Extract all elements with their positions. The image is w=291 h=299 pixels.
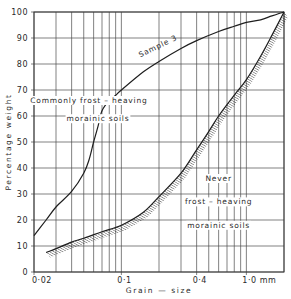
y-tick-label: 30 xyxy=(17,190,28,199)
y-tick-label: 0 xyxy=(22,268,28,277)
y-tick-label: 20 xyxy=(17,216,28,225)
y-tick-labels: 0102030405060708090100 xyxy=(11,8,28,277)
x-tick-label: 0·4 xyxy=(193,276,207,285)
annotation-label: morainic soils xyxy=(67,114,130,123)
y-tick-label: 100 xyxy=(11,8,28,17)
y-tick-label: 60 xyxy=(17,112,28,121)
y-axis-label: Percentage weight xyxy=(4,93,13,190)
x-axis-label: Grain — size xyxy=(126,286,192,295)
hatched-band xyxy=(46,12,288,258)
x-tick-label: 1·0 mm xyxy=(242,276,276,285)
annotation-label: frost – heaving xyxy=(185,197,253,206)
y-tick-label: 70 xyxy=(17,86,28,95)
y-tick-label: 90 xyxy=(17,34,28,43)
boundary-curve xyxy=(46,12,284,253)
y-tick-label: 50 xyxy=(17,138,28,147)
y-tick-label: 80 xyxy=(17,60,28,69)
grain-size-chart: 0102030405060708090100 0·020·10·41·0 mm … xyxy=(0,0,291,299)
annotation-label: morainic soils xyxy=(187,221,250,230)
y-tick-label: 10 xyxy=(17,242,28,251)
y-tick-label: 40 xyxy=(17,164,28,173)
x-gridlines xyxy=(34,12,284,275)
x-tick-label: 0·1 xyxy=(117,276,131,285)
annotation-label: Never xyxy=(205,174,231,183)
annotation-label: Commonly frost – heaving xyxy=(30,96,147,105)
x-tick-label: 0·02 xyxy=(32,276,52,285)
annotation-label: Sample 3 xyxy=(137,33,178,59)
x-tick-labels: 0·020·10·41·0 mm xyxy=(32,276,276,285)
